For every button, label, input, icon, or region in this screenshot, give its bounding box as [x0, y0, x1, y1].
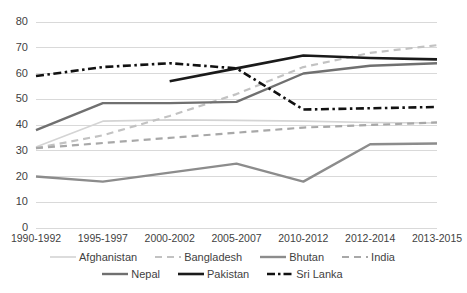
y-axis-tick-label: 70 — [2, 42, 28, 53]
legend-label: Bhutan — [289, 251, 324, 263]
chart-legend: AfghanistanBangladeshBhutanIndiaNepalPak… — [0, 248, 445, 282]
series-lines — [36, 45, 437, 181]
y-axis-tick-label: 80 — [2, 16, 28, 27]
x-axis-tick-label: 2005-2007 — [202, 233, 272, 244]
x-axis-tick-label: 1990-1992 — [1, 233, 71, 244]
legend-row: NepalPakistanSri Lanka — [0, 265, 445, 282]
legend-item-india[interactable]: India — [342, 251, 395, 263]
y-axis-tick-label: 40 — [2, 119, 28, 130]
x-axis-tick-label: 2010-2012 — [268, 233, 338, 244]
legend-row: AfghanistanBangladeshBhutanIndia — [0, 248, 445, 265]
x-axis-tick-label: 2013-2015 — [402, 233, 467, 244]
legend-swatch-icon — [260, 252, 286, 262]
legend-label: Sri Lanka — [296, 268, 342, 280]
legend-item-bhutan[interactable]: Bhutan — [260, 251, 324, 263]
legend-label: Nepal — [131, 268, 160, 280]
legend-item-afghanistan[interactable]: Afghanistan — [50, 251, 137, 263]
legend-swatch-icon — [50, 252, 76, 262]
legend-label: Pakistan — [207, 268, 249, 280]
legend-swatch-icon — [102, 269, 128, 279]
plot-area — [0, 0, 445, 248]
legend-item-bangladesh[interactable]: Bangladesh — [155, 251, 242, 263]
legend-item-nepal[interactable]: Nepal — [102, 268, 160, 280]
legend-swatch-icon — [342, 252, 368, 262]
x-axis-tick-label: 2012-2014 — [335, 233, 405, 244]
y-axis-tick-label: 60 — [2, 68, 28, 79]
series-line-bhutan — [36, 144, 437, 182]
legend-swatch-icon — [267, 269, 293, 279]
y-axis-tick-label: 30 — [2, 145, 28, 156]
series-line-bangladesh — [36, 45, 437, 148]
x-axis-tick-label: 1995-1997 — [68, 233, 138, 244]
legend-item-pakistan[interactable]: Pakistan — [178, 268, 249, 280]
legend-label: Bangladesh — [184, 251, 242, 263]
legend-label: Afghanistan — [79, 251, 137, 263]
series-line-pakistan — [170, 55, 437, 81]
legend-label: India — [371, 251, 395, 263]
legend-item-sri-lanka[interactable]: Sri Lanka — [267, 268, 342, 280]
y-axis-tick-label: 10 — [2, 196, 28, 207]
legend-swatch-icon — [178, 269, 204, 279]
x-axis-tick-label: 2000-2002 — [135, 233, 205, 244]
y-axis-tick-label: 50 — [2, 93, 28, 104]
y-axis-tick-label: 20 — [2, 171, 28, 182]
legend-swatch-icon — [155, 252, 181, 262]
